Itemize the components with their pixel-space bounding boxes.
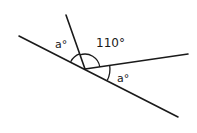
right-ray — [85, 54, 188, 69]
top-angle-label: 110° — [96, 36, 125, 50]
right-angle-label: a° — [117, 72, 129, 85]
diagram-svg: a° 110° a° — [0, 0, 197, 133]
angle-diagram: a° 110° a° — [0, 0, 197, 133]
left-angle-arc — [71, 54, 80, 62]
right-angle-arc — [107, 65, 110, 80]
left-angle-label: a° — [55, 38, 67, 51]
